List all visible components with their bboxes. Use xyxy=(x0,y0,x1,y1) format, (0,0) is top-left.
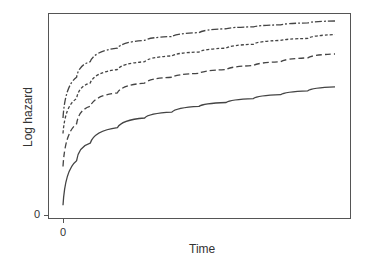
x-axis-label: Time xyxy=(189,242,215,256)
y-axis-label: Log hazard xyxy=(21,77,35,157)
series-line-dashed xyxy=(63,54,335,167)
series-layer xyxy=(63,21,335,205)
series-line-dotted xyxy=(63,35,335,134)
y-tick-label: 0 xyxy=(34,208,40,220)
series-line-dash-dot xyxy=(63,21,335,118)
plot-frame xyxy=(49,14,351,219)
chart-canvas xyxy=(0,0,370,266)
x-tick-label: 0 xyxy=(60,226,66,238)
series-line-solid xyxy=(63,87,335,205)
